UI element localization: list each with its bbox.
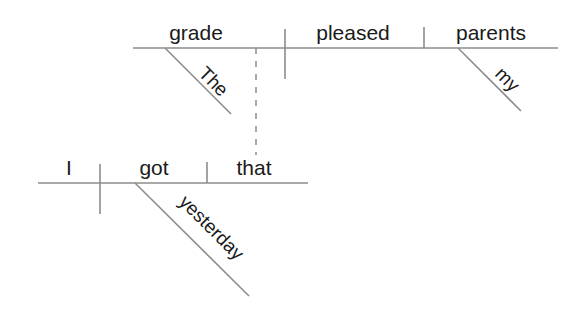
main-object-modifier-word: my [491, 63, 524, 96]
sub-object-word: that [236, 156, 271, 179]
sub-subject-word: I [66, 156, 72, 179]
sentence-diagram: grade pleased parents The my I got that … [0, 0, 586, 309]
main-subject-word: grade [169, 21, 223, 44]
sub-verb-word: got [139, 156, 168, 179]
main-subject-modifier-word: The [195, 62, 233, 100]
sub-verb-modifier-word: yesterday [175, 191, 248, 264]
main-verb-word: pleased [316, 21, 390, 44]
diagram-canvas: grade pleased parents The my I got that … [0, 0, 586, 309]
main-object-word: parents [456, 21, 526, 44]
